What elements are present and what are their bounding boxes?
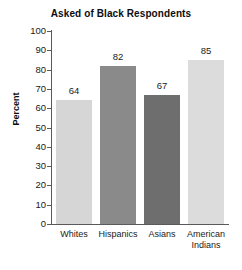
- bar-chart: Asked of Black Respondents Percent 01020…: [0, 0, 242, 270]
- y-axis-tick-label: 80: [20, 65, 46, 74]
- y-axis-tick-label: 10: [20, 200, 46, 209]
- y-axis-tick: [47, 70, 52, 71]
- y-axis-tick: [47, 205, 52, 206]
- x-axis-line: [51, 224, 229, 225]
- bar-value-label: 67: [144, 80, 180, 91]
- plot-area: 64826785: [52, 31, 228, 224]
- bar-value-label: 64: [56, 85, 92, 96]
- y-axis-tick-label: 90: [20, 45, 46, 54]
- y-axis-tick-labels: 0102030405060708090100: [14, 0, 46, 270]
- x-axis-tick-label-line: American: [180, 229, 232, 240]
- y-axis-tick: [47, 89, 52, 90]
- x-axis-tick-label-line: Indians: [180, 240, 232, 251]
- y-axis-tick-label: 40: [20, 142, 46, 151]
- y-axis-tick: [47, 31, 52, 32]
- y-axis-tick: [47, 147, 52, 148]
- y-axis-tick-label: 50: [20, 123, 46, 132]
- y-axis-tick: [47, 50, 52, 51]
- bar: 82: [100, 66, 136, 224]
- y-axis-tick-label: 0: [20, 219, 46, 228]
- x-axis-tick-label: AmericanIndians: [180, 229, 232, 251]
- y-axis-tick: [47, 224, 52, 225]
- y-axis-tick: [47, 108, 52, 109]
- y-axis-tick-label: 30: [20, 161, 46, 170]
- y-axis-tick: [47, 185, 52, 186]
- y-axis-tick-label: 60: [20, 103, 46, 112]
- y-axis-tick-label: 100: [20, 26, 46, 35]
- y-axis-tick: [47, 128, 52, 129]
- bar: 85: [188, 60, 224, 224]
- y-axis-tick-label: 20: [20, 180, 46, 189]
- bar-value-label: 85: [188, 45, 224, 56]
- bar-value-label: 82: [100, 51, 136, 62]
- y-axis-tick-label: 70: [20, 84, 46, 93]
- bar: 64: [56, 100, 92, 224]
- y-axis-tick: [47, 166, 52, 167]
- bar: 67: [144, 95, 180, 224]
